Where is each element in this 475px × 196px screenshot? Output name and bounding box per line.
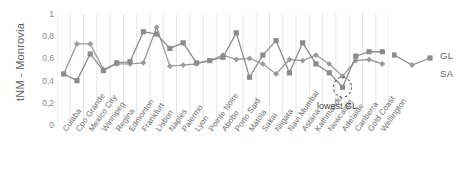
data-point-marker (167, 63, 173, 69)
data-point-marker (380, 49, 385, 54)
data-point-marker (327, 70, 332, 75)
data-point-marker (233, 57, 239, 63)
data-point-marker (247, 75, 252, 80)
y-tick-label: 0,6 (24, 54, 54, 62)
x-axis-tick-labels: CuiabaCpo GrandeMexico CityWinnipegRegin… (57, 128, 397, 196)
data-point-marker (167, 46, 172, 51)
data-point-marker (353, 54, 358, 59)
data-point-marker (127, 59, 132, 64)
data-point-marker (366, 49, 371, 54)
y-tick-label: 0,2 (24, 99, 54, 107)
data-point-marker (87, 41, 93, 47)
data-point-marker (154, 31, 159, 36)
legend-marker-square (392, 52, 397, 57)
y-tick-label: 1 (24, 10, 54, 18)
data-point-marker (287, 70, 292, 75)
legend-marker-diamond (409, 62, 415, 68)
data-point-marker (274, 38, 279, 43)
data-point-marker (366, 57, 372, 63)
data-point-marker (114, 60, 119, 65)
data-point-marker (101, 68, 106, 73)
data-point-marker (260, 52, 265, 57)
data-point-marker (74, 78, 79, 83)
data-point-marker (379, 61, 385, 67)
data-point-marker (300, 40, 305, 45)
data-point-marker (220, 55, 225, 60)
y-tick-label: 0,4 (24, 77, 54, 85)
chart-container: tNM - Monrovia 00,20,40,60,81 CuiabaCpo … (0, 0, 475, 196)
data-point-marker (154, 24, 160, 30)
data-point-marker (181, 40, 186, 45)
data-point-marker (300, 58, 306, 64)
data-point-marker (74, 41, 80, 47)
data-point-marker (207, 58, 212, 63)
data-point-marker (180, 62, 186, 68)
data-point-marker (194, 60, 199, 65)
legend-marker-swatches (392, 45, 452, 85)
legend-marker-square (427, 55, 432, 60)
series-path (64, 27, 383, 76)
annotation-lowest-gl: lowest GL (317, 101, 357, 111)
data-point-marker (340, 85, 345, 90)
data-point-marker (247, 56, 253, 62)
y-tick-label: 0,8 (24, 32, 54, 40)
data-point-marker (313, 61, 318, 66)
y-axis-tick-labels: 00,20,40,60,81 (22, 0, 54, 196)
data-point-marker (234, 30, 239, 35)
data-point-marker (61, 71, 66, 76)
series-line-sa (61, 24, 386, 79)
data-point-marker (88, 51, 93, 56)
data-point-marker (140, 60, 146, 66)
y-tick-label: 0 (24, 121, 54, 129)
data-point-marker (141, 29, 146, 34)
